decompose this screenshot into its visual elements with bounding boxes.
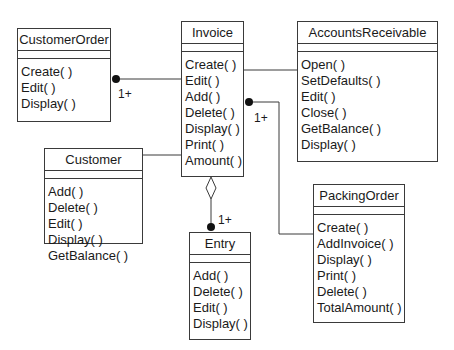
multiplicity-dot-invoice-icon xyxy=(245,98,253,106)
class-customer-order[interactable]: CustomerOrder Create( ) Edit( ) Display(… xyxy=(17,28,111,122)
operation: Edit( ) xyxy=(48,216,142,232)
operation: Display( ) xyxy=(301,137,437,153)
operation: GetBalance( ) xyxy=(48,248,142,264)
multiplicity-dot-entry-icon xyxy=(207,223,215,231)
multiplicity-label-customerorder: 1+ xyxy=(118,87,132,101)
operations-compartment: Add( ) Delete( ) Edit( ) Display( ) GetB… xyxy=(45,179,142,266)
operation: AddInvoice( ) xyxy=(317,236,404,252)
multiplicity-dot-customerorder-icon xyxy=(112,75,120,83)
class-name: CustomerOrder xyxy=(18,29,110,51)
class-name: Invoice xyxy=(182,22,243,44)
operation: Create( ) xyxy=(21,64,110,80)
multiplicity-label-invoice: 1+ xyxy=(254,111,268,125)
operation: Print( ) xyxy=(317,268,404,284)
operations-compartment: Create( ) Edit( ) Display( ) xyxy=(18,59,110,114)
operation: Edit( ) xyxy=(193,300,250,316)
class-customer[interactable]: Customer Add( ) Delete( ) Edit( ) Displa… xyxy=(44,148,143,244)
operation: SetDefaults( ) xyxy=(301,73,437,89)
attributes-compartment xyxy=(45,171,142,179)
attributes-compartment xyxy=(314,207,404,215)
aggregation-diamond-icon xyxy=(206,177,216,199)
operation: Edit( ) xyxy=(185,73,243,89)
attributes-compartment xyxy=(298,44,437,52)
operation: Open( ) xyxy=(301,57,437,73)
operation: Add( ) xyxy=(48,184,142,200)
multiplicity-label-entry: 1+ xyxy=(218,213,232,227)
operation: GetBalance( ) xyxy=(301,121,437,137)
class-accounts-receivable[interactable]: AccountsReceivable Open( ) SetDefaults( … xyxy=(297,21,438,162)
operation: Create( ) xyxy=(317,220,404,236)
class-packing-order[interactable]: PackingOrder Create( ) AddInvoice( ) Dis… xyxy=(313,184,405,323)
operation: Display( ) xyxy=(185,121,243,137)
operation: Amount( ) xyxy=(185,153,243,169)
operation: TotalAmount( ) xyxy=(317,300,404,316)
operations-compartment: Create( ) AddInvoice( ) Display( ) Print… xyxy=(314,215,404,318)
operation: Delete( ) xyxy=(48,200,142,216)
operation: Delete( ) xyxy=(185,105,243,121)
operations-compartment: Add( ) Delete( ) Edit( ) Display( ) xyxy=(190,263,250,334)
operation: Display( ) xyxy=(48,232,142,248)
attributes-compartment xyxy=(190,255,250,263)
operation: Add( ) xyxy=(193,268,250,284)
class-name: Customer xyxy=(45,149,142,171)
attributes-compartment xyxy=(182,44,243,52)
operation: Display( ) xyxy=(193,316,250,332)
operation: Create( ) xyxy=(185,57,243,73)
operations-compartment: Create( ) Edit( ) Add( ) Delete( ) Displ… xyxy=(182,52,243,171)
operation: Display( ) xyxy=(21,96,110,112)
class-name: PackingOrder xyxy=(314,185,404,207)
class-invoice[interactable]: Invoice Create( ) Edit( ) Add( ) Delete(… xyxy=(181,21,244,177)
operation: Add( ) xyxy=(185,89,243,105)
attributes-compartment xyxy=(18,51,110,59)
class-name: Entry xyxy=(190,233,250,255)
operations-compartment: Open( ) SetDefaults( ) Edit( ) Close( ) … xyxy=(298,52,437,155)
operation: Delete( ) xyxy=(317,284,404,300)
class-entry[interactable]: Entry Add( ) Delete( ) Edit( ) Display( … xyxy=(189,232,251,340)
operation: Delete( ) xyxy=(193,284,250,300)
operation: Print( ) xyxy=(185,137,243,153)
operation: Edit( ) xyxy=(21,80,110,96)
operation: Display( ) xyxy=(317,252,404,268)
operation: Close( ) xyxy=(301,105,437,121)
class-name: AccountsReceivable xyxy=(298,22,437,44)
operation: Edit( ) xyxy=(301,89,437,105)
